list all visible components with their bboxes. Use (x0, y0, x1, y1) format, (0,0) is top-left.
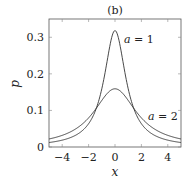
y-tick-label: 0.1 (27, 104, 45, 117)
chart-title: (b) (107, 4, 123, 17)
plot-frame (49, 19, 181, 147)
y-tick-label: 0.3 (27, 31, 45, 44)
x-tick-label: 0 (112, 151, 119, 164)
y-axis-label: p (8, 80, 22, 88)
x-tick-label: −4 (54, 151, 70, 164)
curves (49, 31, 181, 143)
x-tick-label: 4 (164, 151, 171, 164)
annotation-a1: a = 1 (124, 33, 154, 46)
x-axis-label: x (112, 165, 119, 179)
x-tick-label: −2 (80, 151, 96, 164)
y-tick-label: 0 (37, 141, 44, 154)
chart: (b) −4−202400.10.20.3 x p a = 1 a = 2 (0, 0, 190, 183)
annotation-a2: a = 2 (148, 110, 178, 123)
x-tick-label: 2 (138, 151, 145, 164)
series-line (49, 31, 181, 143)
y-tick-label: 0.2 (27, 68, 45, 81)
